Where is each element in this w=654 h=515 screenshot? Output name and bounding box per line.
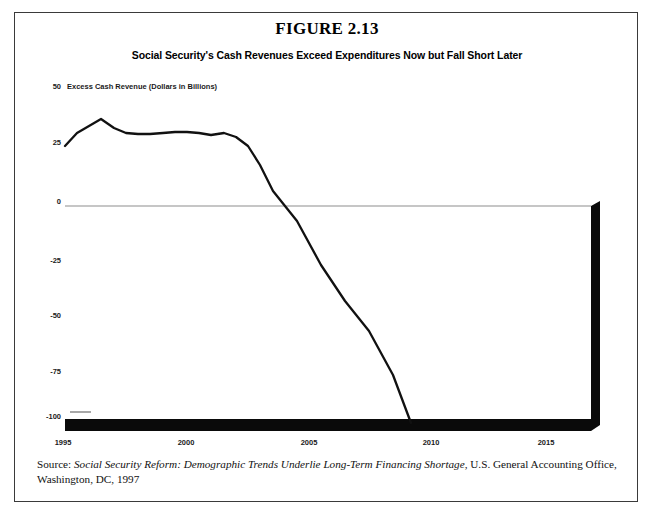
chart-plot-area: 50 25 0 -25 -50 -75 -100 Excess Cash Rev… xyxy=(15,13,639,453)
y-tick-label: -100 xyxy=(46,412,61,421)
y-axis-title: Excess Cash Revenue (Dollars in Billions… xyxy=(67,82,218,91)
x-axis-ticks: 1995 2000 2005 2010 2015 xyxy=(55,438,555,447)
y-tick-label: -75 xyxy=(50,367,61,376)
x-tick-label: 2005 xyxy=(301,438,318,447)
figure-page: FIGURE 2.13 Social Security's Cash Reven… xyxy=(0,0,654,515)
x-tick-label: 2010 xyxy=(423,438,440,447)
figure-frame: FIGURE 2.13 Social Security's Cash Reven… xyxy=(14,12,638,502)
series-line-excess-cash-revenue xyxy=(65,119,411,423)
y-tick-label: -50 xyxy=(50,311,61,320)
x-tick-label: 2000 xyxy=(178,438,195,447)
source-note: Source: Social Security Reform: Demograp… xyxy=(37,457,623,487)
line-chart-svg: 50 25 0 -25 -50 -75 -100 Excess Cash Rev… xyxy=(15,13,639,453)
source-prefix: Source: xyxy=(37,458,74,470)
y-axis-ticks: 50 25 0 -25 -50 -75 -100 xyxy=(46,82,61,421)
source-title: Social Security Reform: Demographic Tren… xyxy=(74,458,465,470)
x-tick-label: 2015 xyxy=(538,438,555,447)
plot-right-wall xyxy=(591,201,600,423)
y-tick-label: 0 xyxy=(57,197,61,206)
plot-baseline-band xyxy=(65,413,600,431)
x-tick-label: 1995 xyxy=(55,438,72,447)
y-tick-label: 50 xyxy=(53,82,61,91)
y-tick-label: 25 xyxy=(53,138,61,147)
y-tick-label: -25 xyxy=(50,256,61,265)
